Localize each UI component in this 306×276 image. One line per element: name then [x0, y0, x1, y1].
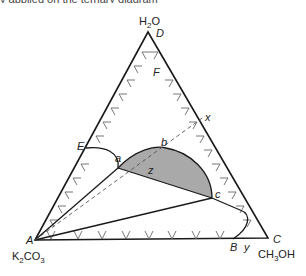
point-label-a: a — [115, 152, 121, 164]
vertex-label-ch3oh: CH3OH — [258, 248, 295, 263]
point-label-c: c — [215, 188, 221, 200]
point-label-y: y — [243, 241, 251, 253]
point-label-c-vertex: C — [273, 233, 281, 245]
point-label-e: E — [77, 140, 85, 152]
curve-e-to-a — [86, 148, 118, 168]
ternary-diagram: H2O D A K2CO3 C CH3OH F E a b z c x B y — [0, 0, 306, 276]
point-label-b-upper: B — [230, 241, 237, 253]
point-label-b: b — [161, 136, 167, 148]
triangle-outline — [35, 32, 268, 240]
vertex-label-k2co3: K2CO3 — [12, 250, 45, 265]
line-a-to-a — [35, 168, 118, 240]
point-label-x: x — [204, 111, 211, 123]
point-label-z: z — [147, 164, 154, 176]
left-edge-ticks — [50, 52, 150, 227]
bottom-edge-ticks — [47, 231, 224, 239]
point-label-a-vertex: A — [25, 234, 33, 246]
point-label-f: F — [153, 66, 161, 78]
point-label-d: D — [156, 27, 164, 39]
